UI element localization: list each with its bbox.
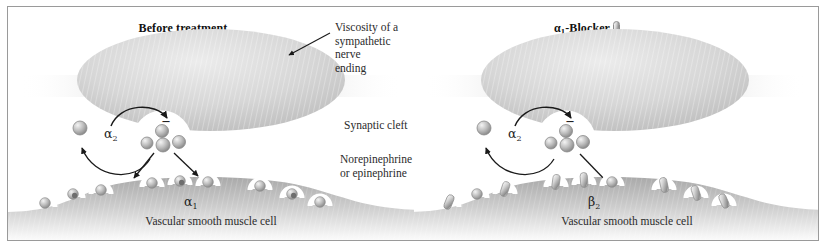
- blocker-capsule: [580, 172, 588, 187]
- panel-before-treatment: Before treatment: [8, 7, 414, 240]
- alpha2-receptor-label: α2: [508, 126, 522, 143]
- callout-synaptic-cleft: Synaptic cleft: [344, 119, 408, 133]
- release-arrow-left: [134, 153, 154, 178]
- figure-root: Before treatment: [0, 0, 827, 249]
- alpha2-receptor-label: α2: [104, 126, 118, 143]
- callout-norepinephrine: Norepinephrine or epinephrine: [340, 153, 412, 180]
- caption-vascular-smooth-muscle-cell-left: Vascular smooth muscle cell: [8, 215, 414, 229]
- panel-right-illustration: α2 –: [412, 7, 818, 240]
- release-arrow-right: [174, 153, 198, 176]
- reuptake-neurotransmitter: [477, 121, 491, 135]
- caption-vascular-smooth-muscle-cell-right: Vascular smooth muscle cell: [424, 215, 827, 229]
- panel-alpha1-blocker: α1-Blocker: [412, 7, 818, 240]
- reuptake-neurotransmitter: [73, 121, 87, 135]
- figure-frame: Before treatment: [7, 6, 819, 241]
- reuptake-arrow: [486, 148, 554, 175]
